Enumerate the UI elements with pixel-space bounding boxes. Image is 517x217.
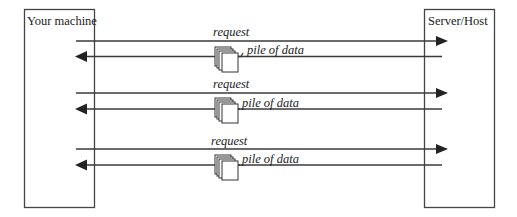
response-label: pile of data xyxy=(241,152,299,166)
client-label: Your machine xyxy=(27,14,97,28)
exchange-1: request pile of data xyxy=(75,25,448,72)
exchange-2: request pile of data xyxy=(75,77,448,123)
server-label: Server/Host xyxy=(428,14,488,28)
request-label: request xyxy=(213,25,250,39)
request-label: request xyxy=(213,77,250,91)
client-server-diagram: Your machine Server/Host request pile of… xyxy=(0,0,517,217)
document-stack-icon xyxy=(215,98,240,123)
document-stack-icon xyxy=(215,155,240,180)
exchange-3: request pile of data xyxy=(75,134,448,180)
document-stack-icon xyxy=(215,47,243,72)
response-label: pile of data xyxy=(241,96,299,110)
response-label: pile of data xyxy=(246,43,304,57)
request-label: request xyxy=(211,134,248,148)
